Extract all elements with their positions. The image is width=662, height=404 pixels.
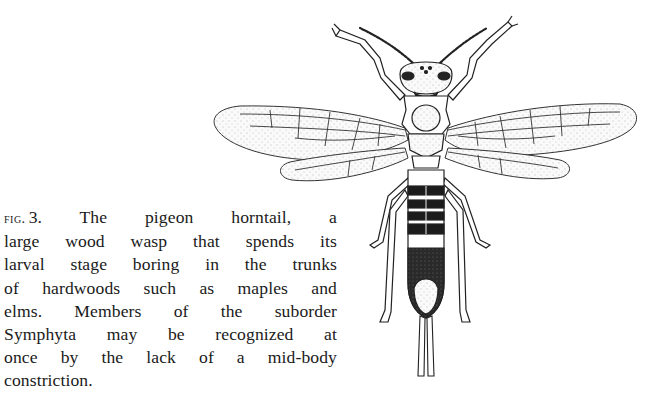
caption-line-2: large wood wasp that spends its xyxy=(4,230,337,253)
thorax xyxy=(402,96,450,168)
caption-line-4: of hardwoods such as maples and xyxy=(4,277,337,300)
caption-text: The pigeon horntail, a xyxy=(80,207,337,227)
caption-line-8: constriction. xyxy=(4,369,337,392)
head xyxy=(400,62,452,97)
figure-label: fig. xyxy=(4,211,26,226)
caption-line-1: fig.3. The pigeon horntail, a xyxy=(4,206,337,230)
figure-number: 3. xyxy=(29,207,42,227)
caption-line-6: Symphyta may be recognized at xyxy=(4,323,337,346)
caption-line-7: once by the lack of a mid-body xyxy=(4,346,337,369)
caption-line-3: larval stage boring in the trunks xyxy=(4,253,337,276)
figure-caption: fig.3. The pigeon horntail, a large wood… xyxy=(4,206,337,393)
abdomen xyxy=(408,170,444,318)
caption-line-5: elms. Members of the suborder xyxy=(4,300,337,323)
ovipositor xyxy=(418,316,434,376)
